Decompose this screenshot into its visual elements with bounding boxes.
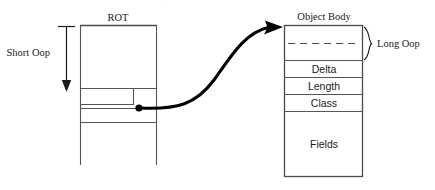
delta-cell-label: Delta — [312, 63, 337, 75]
pointer-curve — [139, 28, 268, 109]
object-memory-layout-diagram: ROT Short Oop — [0, 0, 435, 190]
short-oop-label: Short Oop — [7, 47, 50, 58]
object-body-title: Object Body — [297, 11, 351, 22]
class-cell-label: Class — [311, 97, 337, 109]
short-oop-arrowhead — [62, 80, 71, 92]
length-cell-label: Length — [308, 80, 340, 92]
diagram-canvas: - + - - ROT — [0, 0, 435, 190]
object-body-box: Delta Length Class Fields — [284, 26, 363, 177]
pointer-arrow — [135, 21, 283, 112]
long-oop-label: Long Oop — [377, 38, 420, 49]
rot-box — [80, 25, 157, 165]
fields-cell-label: Fields — [310, 138, 338, 150]
long-oop-brace-path — [364, 27, 372, 60]
rot-title: ROT — [108, 12, 130, 23]
long-oop-brace — [364, 27, 372, 60]
short-oop-measure — [58, 27, 75, 93]
